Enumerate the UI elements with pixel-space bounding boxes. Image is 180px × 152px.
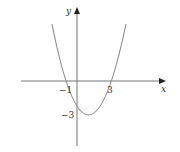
x-tick-label-3: 3: [107, 85, 113, 95]
y-axis-arrow-icon: [74, 7, 80, 14]
y-axis-label: y: [65, 6, 72, 16]
parabola-graph: y x −1 3 −3: [0, 0, 180, 152]
y-tick-label-neg3: −3: [61, 110, 75, 120]
parabola-curve: [52, 24, 126, 115]
x-tick-label-neg1: −1: [59, 85, 72, 95]
x-axis-label: x: [161, 84, 166, 94]
